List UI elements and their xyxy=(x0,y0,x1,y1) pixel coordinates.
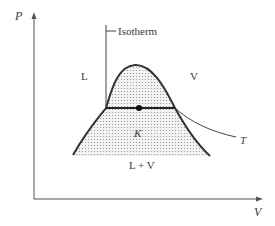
critical-point-label: K xyxy=(134,128,141,139)
liquid-region-label: L xyxy=(81,71,88,82)
two-phase-label: L + V xyxy=(129,160,155,171)
vapor-region-label: V xyxy=(190,71,198,82)
y-axis-label: P xyxy=(15,10,22,22)
x-axis-arrow-icon xyxy=(256,197,263,202)
temperature-label: T xyxy=(240,135,246,146)
isotherm-label: Isotherm xyxy=(118,26,157,37)
y-axis-arrow-icon xyxy=(32,12,37,19)
critical-point-dot xyxy=(136,105,142,111)
x-axis-label: V xyxy=(254,206,261,218)
